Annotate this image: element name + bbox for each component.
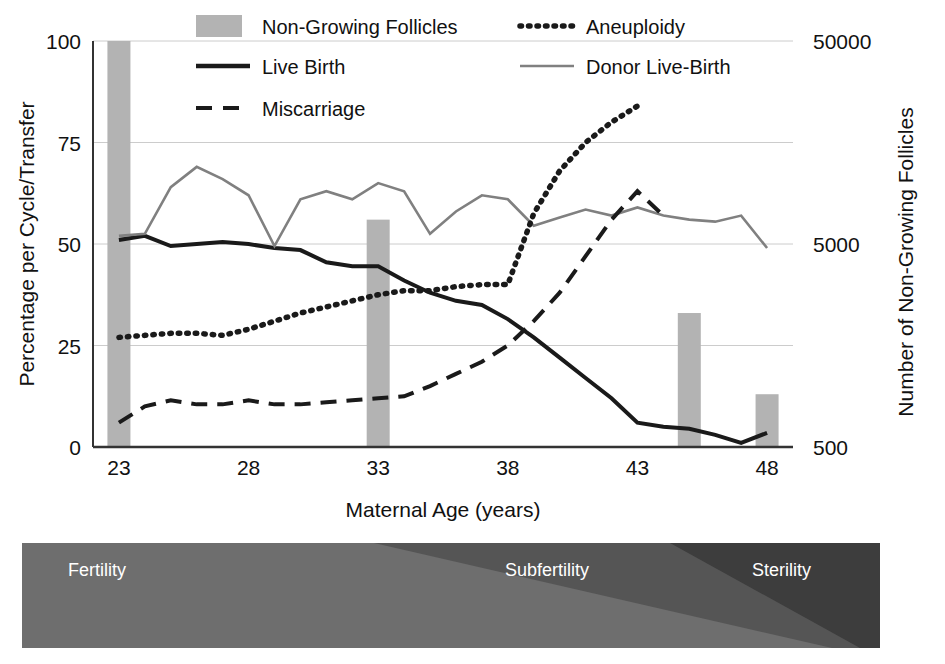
fertility-band-label-sterility: Sterility xyxy=(752,560,811,580)
legend-label-non-growing-follicles: Non-Growing Follicles xyxy=(262,16,458,38)
fertility-band-label-subfertility: Subfertility xyxy=(505,560,589,580)
y2-axis-tick-label: 50000 xyxy=(813,30,871,53)
series-line-donor-live-birth xyxy=(119,167,767,248)
y-axis-tick-label: 0 xyxy=(69,436,81,459)
y-axis-tick-label: 100 xyxy=(46,30,81,53)
legend-label-live-birth: Live Birth xyxy=(262,56,345,78)
y-axis-tick-label: 25 xyxy=(58,335,81,358)
y-axis-tick-label: 75 xyxy=(58,132,81,155)
bar-non-growing-follicles xyxy=(367,220,390,447)
x-axis-tick-label: 28 xyxy=(237,456,260,479)
y2-axis-tick-label: 500 xyxy=(813,436,848,459)
series-line-miscarriage xyxy=(119,191,663,422)
x-axis-tick-label: 38 xyxy=(496,456,519,479)
legend-label-donor-live-birth: Donor Live-Birth xyxy=(586,56,731,78)
y2-axis-tick-label: 5000 xyxy=(813,233,860,256)
y2-axis-title: Number of Non-Growing Follicles xyxy=(894,107,917,416)
legend-swatch-non-growing-follicles xyxy=(196,15,242,37)
fertility-chart-figure: 0255075100500500050000232833384348Matern… xyxy=(0,0,945,664)
bar-non-growing-follicles xyxy=(756,394,779,447)
legend-label-aneuploidy: Aneuploidy xyxy=(586,16,685,38)
x-axis-tick-label: 48 xyxy=(755,456,778,479)
chart-canvas: 0255075100500500050000232833384348Matern… xyxy=(0,0,945,664)
y-axis-tick-label: 50 xyxy=(58,233,81,256)
x-axis-tick-label: 33 xyxy=(367,456,390,479)
x-axis-tick-label: 23 xyxy=(107,456,130,479)
y-axis-title: Percentage per Cycle/Transfer xyxy=(15,101,38,386)
x-axis-title: Maternal Age (years) xyxy=(346,498,541,521)
fertility-band-label-fertility: Fertility xyxy=(68,560,126,580)
series-line-live-birth xyxy=(119,236,767,443)
x-axis-tick-label: 43 xyxy=(626,456,649,479)
legend-label-miscarriage: Miscarriage xyxy=(262,98,365,120)
bar-non-growing-follicles xyxy=(107,41,130,447)
